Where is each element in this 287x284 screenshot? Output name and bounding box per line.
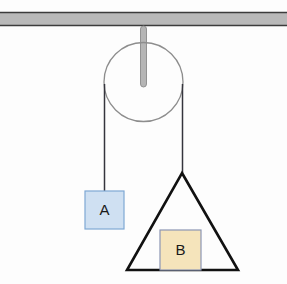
diagram-svg: B A — [0, 0, 287, 284]
pulley-diagram-canvas: B A — [0, 0, 287, 284]
block-b-label: B — [175, 241, 185, 258]
block-b: B — [160, 230, 201, 270]
block-a-label: A — [99, 201, 109, 218]
pulley-support-rod — [141, 26, 147, 87]
ceiling-beam — [0, 12, 287, 26]
block-a: A — [85, 191, 124, 229]
ceiling-beam-fill — [0, 12, 287, 26]
